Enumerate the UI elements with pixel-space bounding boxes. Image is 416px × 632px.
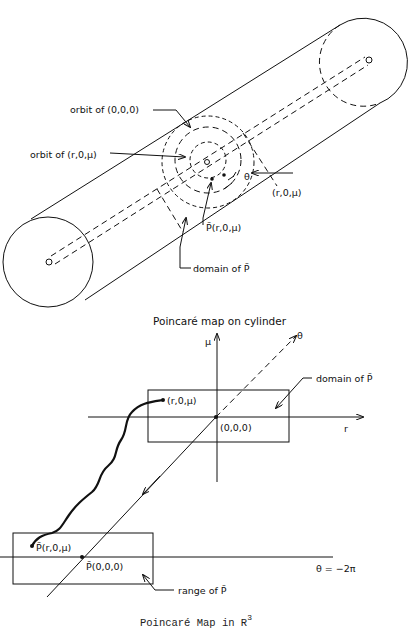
flow-arrow	[143, 476, 160, 494]
caption-superscript: 3	[247, 613, 252, 622]
axis-end-left	[46, 259, 52, 265]
leader-orbit-point	[110, 153, 185, 157]
mu-axis-label: μ	[205, 336, 211, 347]
label-plane-eq: θ = −2π	[316, 563, 356, 574]
image-origin-dot	[80, 555, 84, 559]
axis-end-right	[366, 57, 372, 63]
cylinder-view: orbit of (0,0,0) orbit of (r,0,μ) θ (r,0…	[3, 18, 407, 327]
label-domain-r3: domain of P̃	[316, 373, 373, 384]
theta-axis-label: θ	[297, 330, 303, 341]
origin-dot	[214, 415, 218, 419]
point-dot	[222, 173, 226, 177]
center-mark	[205, 160, 210, 165]
label-point-cyl: (r,0,μ)	[272, 187, 301, 198]
leader-domain-r3	[276, 378, 312, 408]
leader-orbit-origin	[153, 110, 190, 127]
label-image-origin: P̃(0,0,0)	[86, 561, 123, 572]
poincare-diagram: orbit of (0,0,0) orbit of (r,0,μ) θ (r,0…	[0, 0, 416, 632]
domain-boundary-left	[157, 189, 183, 232]
theta-axis-negative	[47, 417, 216, 597]
label-theta-cyl: θ	[244, 171, 250, 182]
image-point-dot	[210, 177, 214, 181]
theta-axis-positive	[216, 336, 296, 417]
caption-text: Poincaré Map in R	[140, 617, 248, 629]
cylinder-right-end-solid	[340, 18, 407, 103]
r3-view: μ r θ (r,0,μ) (0,0,0) domain of P̃ θ = −…	[0, 330, 373, 629]
label-orbit-point: orbit of (r,0,μ)	[30, 149, 97, 160]
image-point-dot-r3	[30, 544, 34, 548]
label-domain-cyl: domain of P̃	[193, 263, 250, 274]
label-range: range of P̃	[178, 585, 227, 596]
figure-caption: Poincaré Map in R3	[140, 613, 252, 629]
label-image-point-cyl: P̃(r,0,μ)	[206, 222, 241, 233]
r-axis-label: r	[344, 423, 348, 434]
cylinder-axis-lower	[55, 65, 368, 264]
label-origin-r3: (0,0,0)	[220, 422, 252, 433]
cylinder-right-end-hidden	[319, 25, 380, 106]
leader-domain-cyl	[180, 218, 191, 268]
leader-range	[143, 575, 174, 590]
cylinder-title: Poincaré map on cylinder	[153, 315, 287, 327]
label-image-point-r3: P̃(r,0,μ)	[36, 542, 71, 553]
trajectory-curve	[32, 400, 163, 546]
label-point-r3: (r,0,μ)	[167, 395, 196, 406]
label-orbit-origin: orbit of (0,0,0)	[70, 104, 139, 115]
